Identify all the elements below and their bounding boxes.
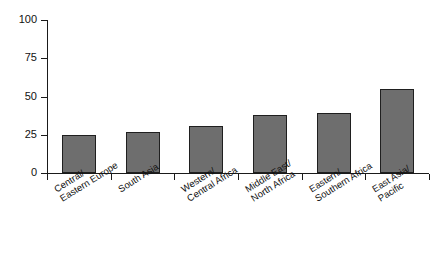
y-tick-label-text: 75 bbox=[11, 52, 37, 63]
y-tick-label-text: 0 bbox=[11, 167, 37, 178]
x-tick-mark bbox=[302, 174, 303, 180]
y-tick-label: 75 bbox=[11, 52, 37, 63]
x-tick-mark bbox=[111, 174, 112, 180]
y-tick-label-text: 25 bbox=[11, 129, 37, 140]
x-tick-mark bbox=[365, 174, 366, 180]
y-tick-label: 25 bbox=[11, 129, 37, 140]
y-tick-label-text: 50 bbox=[11, 91, 37, 102]
x-tick-mark bbox=[429, 174, 430, 180]
x-tick-mark bbox=[238, 174, 239, 180]
y-tick-label-text: 100 bbox=[11, 14, 37, 25]
bar bbox=[380, 89, 414, 173]
bar-chart: 0255075100 Central/Eastern EuropeSouth A… bbox=[0, 0, 435, 259]
y-tick-label: 0 bbox=[11, 167, 37, 178]
x-tick-mark bbox=[47, 174, 48, 180]
y-tick-label: 100 bbox=[11, 14, 37, 25]
y-tick-label: 50 bbox=[11, 91, 37, 102]
plot-area bbox=[47, 20, 429, 173]
x-tick-mark bbox=[174, 174, 175, 180]
